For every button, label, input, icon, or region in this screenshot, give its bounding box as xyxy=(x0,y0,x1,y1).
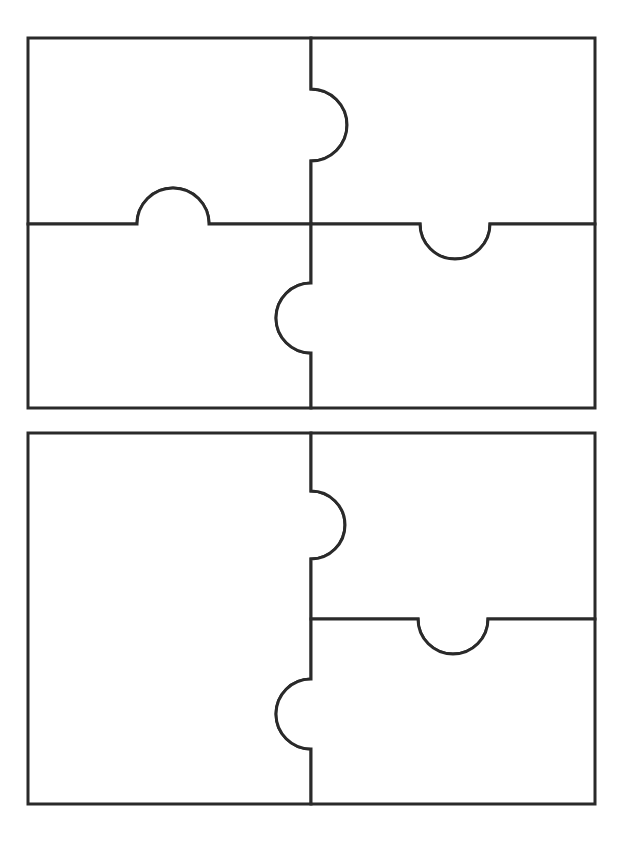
puzzle-bottom-piece-left-tall[interactable] xyxy=(28,433,345,804)
puzzle-bottom xyxy=(28,433,595,804)
puzzle-canvas xyxy=(0,0,623,855)
puzzle-top-piece-bottom-right[interactable] xyxy=(276,224,595,408)
puzzle-top xyxy=(28,38,595,408)
puzzle-worksheet-page: Jigsaw Puzzle Template Blank black-outli… xyxy=(0,0,623,855)
